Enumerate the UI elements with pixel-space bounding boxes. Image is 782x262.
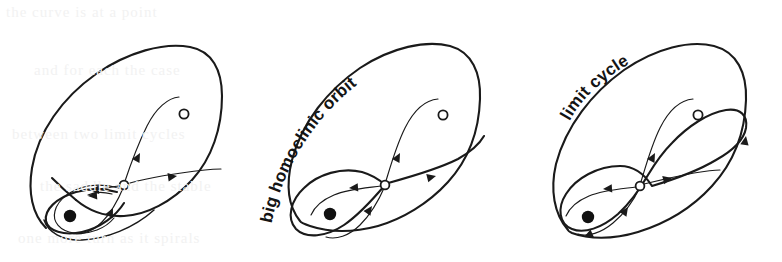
panel-3: limit cycle — [553, 44, 750, 241]
panel-2-stable-spiral-point — [324, 208, 336, 220]
panel-2-saddle-point — [381, 181, 390, 190]
panel-3-caption: limit cycle — [556, 51, 631, 124]
figure-phase-portraits: the curve is at a point and for each the… — [0, 0, 782, 262]
panel-1-stable-spiral-point — [64, 210, 76, 222]
panel-2-arrowhead-ne-right — [426, 172, 437, 182]
panel-1-separatrix-from-focus — [124, 97, 179, 184]
panel-2-caption: big homoclinic orbit — [257, 73, 360, 225]
panel-1 — [31, 46, 222, 240]
panel-3-caption-text: limit cycle — [556, 51, 631, 124]
panel-2-homoclinic-loop — [291, 170, 385, 235]
panel-1-inner-spiral — [54, 185, 119, 233]
panel-2-unstable-focus-point — [438, 110, 447, 119]
panel-3-saddle-point — [636, 182, 645, 191]
panel-2-caption-text: big homoclinic orbit — [257, 73, 360, 225]
panel-1-unstable-focus-point — [179, 109, 188, 118]
panel-3-separatrix-from-focus — [640, 99, 693, 185]
panel-2-unstable-separatrix-right — [388, 136, 484, 183]
panel-3-stable-spiral-point — [582, 211, 594, 223]
panel-3-outer-trajectory — [553, 44, 746, 238]
panel-1-arrowhead-west-inner — [88, 191, 98, 200]
panel-2-outer-trajectory — [289, 44, 480, 231]
panel-3-unstable-focus-point — [693, 110, 702, 119]
phase-portrait-svg: big homoclinic orbit — [0, 0, 782, 262]
panel-2: big homoclinic orbit — [257, 44, 484, 238]
panel-1-saddle-point — [120, 181, 129, 190]
